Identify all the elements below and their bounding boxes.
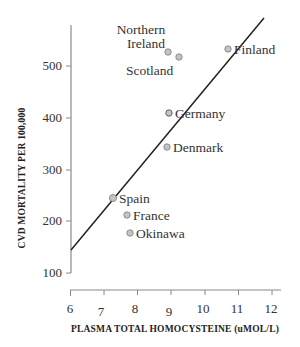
point-denmark (164, 144, 170, 150)
label-northern-ireland-line1: Northern (117, 22, 166, 37)
x-axis-title: PLASMA TOTAL HOMOCYSTEINE (uMOL/L) (71, 324, 279, 335)
y-tick-400: 400 (43, 110, 63, 125)
x-tick-8: 8 (132, 301, 139, 316)
point-germany (166, 110, 172, 116)
point-spain (109, 194, 116, 201)
y-tick-500: 500 (43, 58, 63, 73)
label-finland: Finland (234, 42, 276, 57)
label-france: France (133, 208, 170, 223)
y-axis: 500 400 300 200 100 CVD MORTALITY PER 10… (17, 25, 71, 280)
x-tick-10: 10 (197, 301, 210, 316)
label-spain: Spain (119, 191, 150, 206)
label-scotland: Scotland (126, 63, 173, 78)
point-labels: Northern Ireland Scotland Finland German… (117, 22, 276, 241)
label-germany: Germany (175, 106, 225, 121)
y-axis-title: CVD MORTALITY PER 100,000 (17, 108, 27, 249)
point-northern-ireland (165, 49, 171, 55)
y-tick-200: 200 (43, 213, 63, 228)
x-tick-9: 9 (166, 304, 173, 319)
label-denmark: Denmark (173, 140, 223, 155)
y-tick-300: 300 (43, 162, 63, 177)
x-tick-12: 12 (265, 301, 278, 316)
x-tick-6: 6 (67, 301, 74, 316)
point-finland (225, 46, 231, 52)
scatter-chart: 500 400 300 200 100 CVD MORTALITY PER 10… (0, 0, 300, 347)
y-tick-100: 100 (43, 265, 63, 280)
label-northern-ireland-line2: Ireland (127, 36, 165, 51)
point-okinawa (127, 230, 133, 236)
label-okinawa: Okinawa (136, 226, 185, 241)
point-scotland (176, 54, 182, 60)
point-france (124, 212, 130, 218)
x-tick-7: 7 (98, 304, 105, 319)
x-axis: 6 7 8 9 10 11 12 PLASMA TOTAL HOMOCYSTEI… (67, 290, 281, 335)
x-tick-11: 11 (231, 301, 244, 316)
